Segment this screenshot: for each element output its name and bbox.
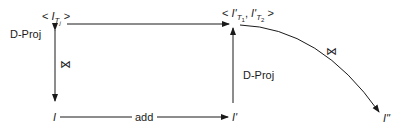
- curve-join-icon: ⋈: [326, 45, 337, 57]
- left-dproj-label: D-Proj: [10, 28, 41, 40]
- right-dproj-label: D-Proj: [243, 69, 274, 81]
- add-label: add: [135, 111, 153, 123]
- node-top-right: < I'T1, I'T2 >: [222, 7, 274, 23]
- node-bottom-middle: I': [232, 111, 238, 123]
- node-top-left: < ITj >: [42, 10, 70, 26]
- left-join-icon: ⋈: [60, 58, 71, 70]
- node-bottom-left: I: [53, 111, 56, 123]
- diagram-canvas: < ITj > < I'T1, I'T2 > D-Proj ⋈ I add I'…: [0, 0, 409, 130]
- node-bottom-right: I": [383, 112, 391, 124]
